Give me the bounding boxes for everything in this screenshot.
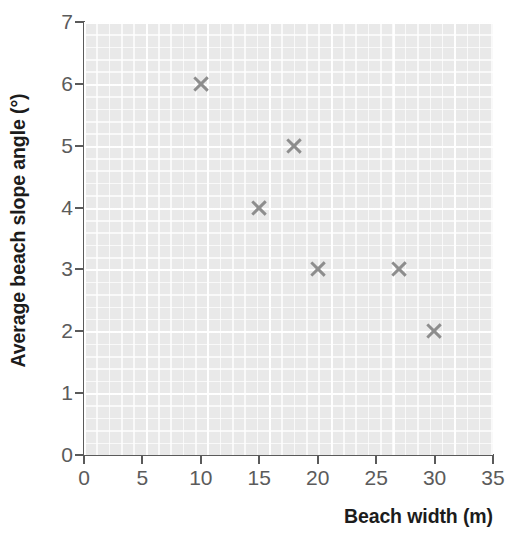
- y-tick-label: 4: [45, 196, 73, 220]
- data-point-marker: [308, 260, 327, 279]
- scatter-chart-figure: Average beach slope angle (°) Beach widt…: [0, 0, 522, 554]
- y-tick-label: 2: [45, 319, 73, 343]
- y-tick-mark: [75, 207, 83, 209]
- x-tick-mark: [258, 456, 260, 464]
- x-tick-label: 20: [298, 466, 338, 490]
- x-tick-label: 15: [239, 466, 279, 490]
- y-tick-mark: [75, 392, 83, 394]
- data-point-marker: [390, 260, 409, 279]
- y-axis-title: Average beach slope angle (°): [0, 0, 36, 460]
- y-tick-label: 5: [45, 134, 73, 158]
- x-tick-mark: [434, 456, 436, 464]
- x-tick-label: 25: [356, 466, 396, 490]
- x-tick-mark: [83, 456, 85, 464]
- data-point-marker: [250, 198, 269, 217]
- x-tick-mark: [317, 456, 319, 464]
- x-tick-mark: [141, 456, 143, 464]
- y-tick-mark: [75, 330, 83, 332]
- plot-area: [84, 22, 493, 455]
- data-point-marker: [425, 322, 444, 341]
- y-tick-mark: [75, 83, 83, 85]
- y-tick-label: 3: [45, 257, 73, 281]
- y-tick-mark: [75, 454, 83, 456]
- x-tick-label: 10: [181, 466, 221, 490]
- y-tick-mark: [75, 268, 83, 270]
- x-tick-label: 0: [64, 466, 104, 490]
- x-tick-label: 35: [473, 466, 513, 490]
- y-tick-label: 1: [45, 381, 73, 405]
- x-tick-mark: [492, 456, 494, 464]
- data-point-marker: [191, 74, 210, 93]
- y-tick-mark: [75, 145, 83, 147]
- x-axis-title: Beach width (m): [84, 505, 493, 528]
- y-tick-label: 6: [45, 72, 73, 96]
- y-tick-mark: [75, 21, 83, 23]
- graph-paper-grid: [84, 22, 493, 455]
- x-tick-label: 30: [415, 466, 455, 490]
- x-tick-label: 5: [122, 466, 162, 490]
- y-tick-label: 0: [45, 443, 73, 467]
- x-tick-mark: [200, 456, 202, 464]
- y-tick-label: 7: [45, 10, 73, 34]
- y-axis-title-text: Average beach slope angle (°): [7, 93, 30, 367]
- data-point-marker: [285, 136, 304, 155]
- x-tick-mark: [375, 456, 377, 464]
- x-axis-title-text: Beach width (m): [344, 505, 493, 527]
